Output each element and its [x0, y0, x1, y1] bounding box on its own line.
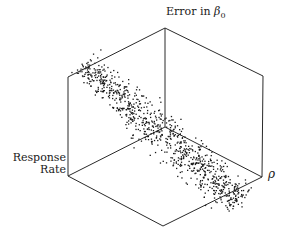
cube-plot — [0, 0, 287, 237]
axis-label-error-beta0: Error in β0 — [166, 6, 225, 22]
cube-edge-bottom-right — [163, 177, 262, 226]
cube-edge-back-left — [68, 127, 165, 176]
scatter-3d-figure: Error in β0 Response Rate ρ — [0, 0, 287, 237]
cube-edge-bottom-left — [68, 176, 163, 226]
cube-edge-right — [262, 76, 263, 177]
cube-edge-top-right — [165, 28, 263, 76]
axis-label-rho: ρ — [268, 168, 275, 180]
axis-label-response-rate: Response Rate — [10, 152, 66, 176]
cube-edge-top-left — [68, 28, 165, 77]
data-points — [71, 49, 252, 211]
